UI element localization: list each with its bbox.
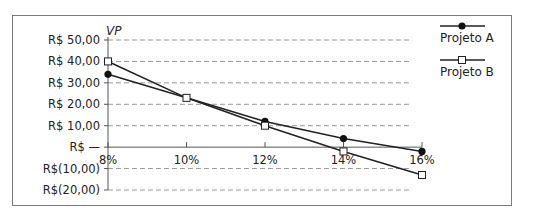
data-point-b (340, 148, 347, 155)
legend-marker-circle-icon (458, 22, 465, 29)
y-tick-label: R$ 40,00 (48, 54, 100, 68)
y-tick-label: R$ 50,00 (48, 33, 100, 47)
x-tick-label: 12% (252, 153, 278, 167)
y-tick-label: R$ 10,00 (48, 119, 100, 133)
data-point-b (183, 94, 190, 101)
y-tick-label: R$(10,00) (43, 162, 100, 176)
data-point-b (419, 172, 426, 179)
x-tick-label: 10% (174, 153, 200, 167)
x-tick-label: 8% (99, 153, 117, 167)
data-point-b (262, 122, 269, 129)
npv-line-chart: VPR$ 50,00R$ 40,00R$ 30,00R$ 20,00R$ 10,… (0, 0, 538, 221)
y-tick-label: R$ 20,00 (48, 97, 100, 111)
legend-label: Projeto A (440, 31, 495, 45)
legend-marker-square-icon (459, 57, 466, 64)
x-tick-label: 16% (409, 153, 435, 167)
data-point-b (105, 58, 112, 65)
y-tick-label: R$ — (70, 140, 100, 154)
data-point-a (340, 135, 347, 142)
y-tick-label: R$ 30,00 (48, 76, 100, 90)
legend-label: Projeto B (440, 65, 494, 79)
data-point-a (104, 71, 111, 78)
series-line-projeto-a (108, 74, 422, 151)
data-point-a (418, 148, 425, 155)
y-axis-label: VP (106, 24, 122, 38)
y-tick-label: R$(20,00) (43, 183, 100, 197)
